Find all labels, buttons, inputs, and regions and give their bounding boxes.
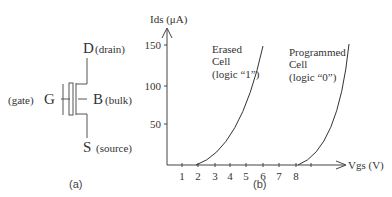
caption-a: (a) (69, 178, 82, 190)
x-axis-label: Vgs (V) (348, 159, 384, 172)
programmed-label-line3: (logic “0”) (289, 71, 337, 84)
y-tick-label-50: 50 (150, 118, 162, 130)
bulk-name: (bulk) (105, 94, 132, 107)
mosfet-symbol (61, 58, 87, 138)
source-letter: S (83, 139, 91, 155)
x-tick-label-5: 5 (243, 170, 249, 182)
y-tick-label-150: 150 (145, 39, 162, 51)
figure: D (drain) (gate) G B (bulk) S (source) (… (0, 0, 392, 197)
x-tick-label-4: 4 (227, 170, 233, 182)
y-axis-label: Ids (μA) (150, 13, 188, 26)
gate-letter: G (44, 91, 55, 107)
x-tick-label-7: 7 (276, 170, 282, 182)
x-tick-label-8: 8 (293, 170, 299, 182)
programmed-label-line1: Programmed (289, 46, 346, 58)
erased-label-line2: Cell (212, 55, 230, 67)
bulk-letter: B (93, 91, 103, 107)
gate-name: (gate) (8, 94, 34, 107)
drain-name: (drain) (95, 43, 125, 56)
programmed-label-line2: Cell (289, 58, 307, 70)
x-tick-label-1: 1 (179, 170, 185, 182)
y-tick-label-100: 100 (145, 80, 162, 92)
caption-b: (b) (253, 178, 266, 190)
source-name: (source) (96, 142, 132, 155)
x-tick-label-3: 3 (212, 170, 218, 182)
x-tick-label-2: 2 (195, 170, 201, 182)
erased-label-line3: (logic “1”) (212, 68, 260, 81)
drain-letter: D (83, 40, 94, 56)
erased-label-line1: Erased (212, 43, 242, 55)
x-tick-labels: 1 2 3 4 5 6 7 8 (179, 170, 299, 182)
